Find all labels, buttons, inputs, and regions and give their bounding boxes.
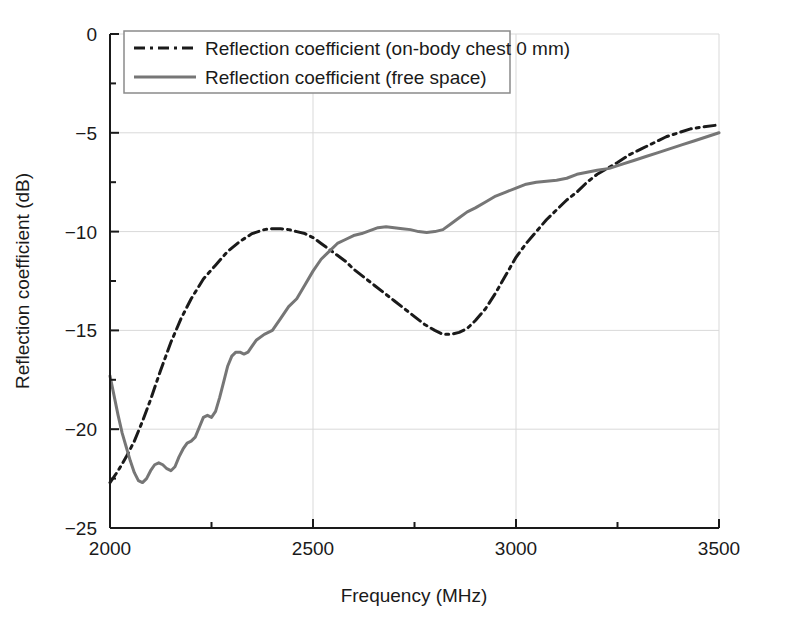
- x-tick-label: 2500: [292, 538, 334, 559]
- y-tick-label: −20: [65, 419, 97, 440]
- y-axis-title: Reflection coefficient (dB): [12, 173, 33, 389]
- x-axis-title: Frequency (MHz): [341, 585, 488, 606]
- reflection-coefficient-line-chart: 0−5−10−15−20−25 2000250030003500 Frequen…: [0, 0, 810, 632]
- y-tick-label: −5: [75, 123, 97, 144]
- chart-figure: 0−5−10−15−20−25 2000250030003500 Frequen…: [0, 0, 810, 632]
- chart-legend: Reflection coefficient (on-body chest 0 …: [124, 31, 570, 93]
- x-tick-label: 3500: [698, 538, 740, 559]
- y-tick-label: −25: [65, 518, 97, 539]
- y-tick-label: 0: [86, 24, 97, 45]
- legend-label-on-body-chest: Reflection coefficient (on-body chest 0 …: [205, 38, 570, 59]
- legend-label-free-space: Reflection coefficient (free space): [205, 67, 487, 88]
- y-tick-label: −10: [65, 222, 97, 243]
- y-tick-label: −15: [65, 320, 97, 341]
- x-tick-label: 3000: [495, 538, 537, 559]
- x-tick-label: 2000: [89, 538, 131, 559]
